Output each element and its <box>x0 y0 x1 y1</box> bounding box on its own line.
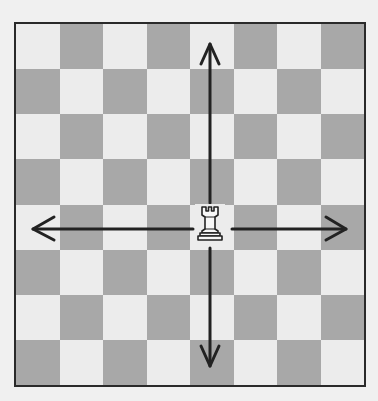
board-square <box>16 340 60 385</box>
board-square <box>190 295 234 340</box>
board-square <box>103 24 147 69</box>
board-square <box>16 205 60 250</box>
board-square <box>277 69 321 114</box>
board-square <box>147 340 191 385</box>
chess-board <box>14 22 366 387</box>
board-square <box>190 114 234 159</box>
board-square <box>190 340 234 385</box>
white-rook-piece <box>195 204 225 242</box>
board-square <box>321 295 365 340</box>
board-square <box>16 114 60 159</box>
board-square <box>277 114 321 159</box>
board-square <box>16 24 60 69</box>
board-square <box>190 250 234 295</box>
board-square <box>103 69 147 114</box>
board-square <box>103 114 147 159</box>
board-square <box>321 250 365 295</box>
board-square <box>103 205 147 250</box>
board-square <box>234 340 278 385</box>
board-square <box>147 250 191 295</box>
board-square <box>60 340 104 385</box>
board-square <box>277 250 321 295</box>
board-square <box>190 24 234 69</box>
board-square <box>277 159 321 204</box>
board-square <box>234 24 278 69</box>
board-square <box>190 69 234 114</box>
board-square <box>234 250 278 295</box>
board-square <box>103 295 147 340</box>
board-square <box>103 340 147 385</box>
board-square <box>60 114 104 159</box>
board-square <box>234 114 278 159</box>
board-square <box>60 24 104 69</box>
board-square <box>60 250 104 295</box>
board-square <box>321 114 365 159</box>
board-square <box>60 69 104 114</box>
board-square <box>277 205 321 250</box>
board-square <box>321 205 365 250</box>
board-square <box>147 295 191 340</box>
board-square <box>234 205 278 250</box>
board-square <box>103 250 147 295</box>
board-square <box>147 205 191 250</box>
board-square <box>277 295 321 340</box>
board-square <box>60 205 104 250</box>
diagram <box>0 0 378 401</box>
board-square <box>321 340 365 385</box>
board-square <box>16 69 60 114</box>
board-square <box>190 159 234 204</box>
board-square <box>147 69 191 114</box>
board-square <box>234 159 278 204</box>
board-square <box>16 250 60 295</box>
board-square <box>16 295 60 340</box>
board-square <box>16 159 60 204</box>
board-square <box>277 24 321 69</box>
board-square <box>60 159 104 204</box>
board-square <box>60 295 104 340</box>
board-square <box>277 340 321 385</box>
board-square <box>321 159 365 204</box>
board-square <box>321 69 365 114</box>
board-square <box>321 24 365 69</box>
board-square <box>103 159 147 204</box>
rook-icon <box>195 204 225 242</box>
board-square <box>234 295 278 340</box>
board-square <box>147 159 191 204</box>
board-square <box>147 114 191 159</box>
board-square <box>234 69 278 114</box>
board-square <box>147 24 191 69</box>
